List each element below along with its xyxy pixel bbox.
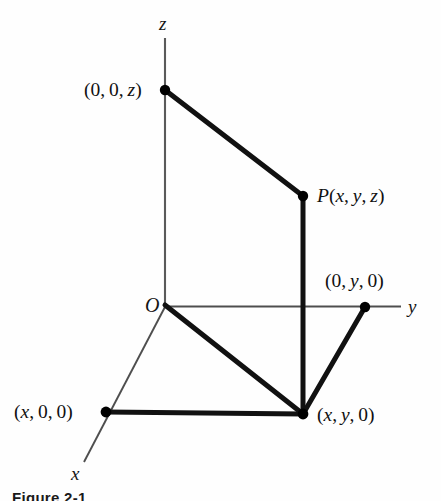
edges-group <box>106 90 365 414</box>
axes-group <box>84 38 401 462</box>
dot-x-intercept <box>101 407 112 418</box>
figure-2-1-container: z y x O (0, 0, z) P(x, y, z) (0, y, 0) (… <box>0 0 441 501</box>
label-y-intercept: (0, y, 0) <box>325 271 384 291</box>
axis-label-x: x <box>71 464 79 483</box>
x-axis-line <box>84 305 166 462</box>
edge-y-intercept-to-xy-projection <box>303 307 365 414</box>
coordinate-system-drawing <box>0 0 441 501</box>
label-xy-projection: (x, y, 0) <box>317 405 375 425</box>
origin-label: O <box>145 295 159 315</box>
label-point-p: P(x, y, z) <box>317 186 384 206</box>
axis-label-z: z <box>159 14 166 33</box>
dot-xy-projection <box>298 409 309 420</box>
figure-caption: Figure 2-1 <box>12 489 87 501</box>
edge-z-intercept-to-p <box>165 90 303 196</box>
axis-label-y: y <box>408 297 416 316</box>
dot-y-intercept <box>360 302 370 312</box>
edge-origin-to-xy-projection <box>165 305 303 414</box>
edge-x-intercept-to-xy-projection <box>106 412 303 414</box>
label-x-intercept: (x, 0, 0) <box>14 402 73 422</box>
dot-z-intercept <box>160 85 170 95</box>
label-z-intercept: (0, 0, z) <box>84 80 142 100</box>
dot-point-p <box>298 191 308 201</box>
